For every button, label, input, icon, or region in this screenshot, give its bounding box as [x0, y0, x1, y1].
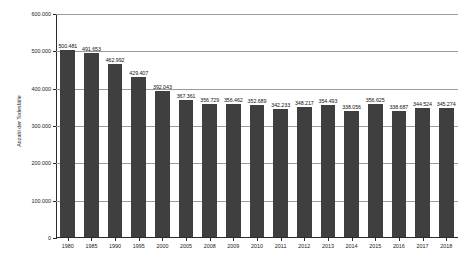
bar[interactable]: [155, 91, 170, 237]
x-tick-label: 2010: [245, 243, 269, 249]
x-tick-mark: [281, 238, 282, 241]
x-tick-mark: [233, 238, 234, 241]
bar[interactable]: [297, 107, 312, 237]
x-tick-label: 2005: [174, 243, 198, 249]
x-tick-label: 2008: [198, 243, 222, 249]
x-tick-mark: [328, 238, 329, 241]
bar[interactable]: [273, 109, 288, 237]
x-tick-mark: [115, 238, 116, 241]
bar-value-label: 338.056: [335, 104, 369, 110]
y-tick-label: 500.000: [32, 48, 52, 54]
y-tick-mark: [53, 126, 56, 127]
bar-value-label: 462.992: [98, 57, 132, 63]
bar-value-label: 491.653: [74, 46, 108, 52]
x-tick-label: 2000: [150, 243, 174, 249]
x-tick-mark: [91, 238, 92, 241]
y-tick-mark: [53, 89, 56, 90]
x-tick-label: 2018: [434, 243, 458, 249]
y-axis-title: Anzahl der Todesfälle: [16, 66, 22, 176]
x-tick-label: 2009: [221, 243, 245, 249]
x-tick-label: 2014: [340, 243, 364, 249]
x-tick-label: 2017: [411, 243, 435, 249]
y-tick-label: 100.000: [32, 198, 52, 204]
bar-value-label: 345.274: [429, 101, 463, 107]
y-tick-mark: [53, 201, 56, 202]
y-tick-mark: [53, 238, 56, 239]
x-tick-mark: [186, 238, 187, 241]
bar[interactable]: [392, 111, 407, 237]
bar[interactable]: [60, 50, 75, 237]
bar[interactable]: [84, 53, 99, 237]
bar[interactable]: [108, 64, 123, 237]
x-tick-label: 2011: [269, 243, 293, 249]
gridline: [56, 14, 458, 15]
bar[interactable]: [321, 105, 336, 237]
x-tick-mark: [446, 238, 447, 241]
bar-value-label: 392.043: [145, 84, 179, 90]
x-tick-label: 2012: [292, 243, 316, 249]
x-tick-label: 1980: [56, 243, 80, 249]
x-tick-mark: [423, 238, 424, 241]
x-tick-label: 2015: [363, 243, 387, 249]
bar[interactable]: [226, 104, 241, 237]
bar[interactable]: [179, 100, 194, 237]
x-tick-mark: [304, 238, 305, 241]
bar[interactable]: [439, 108, 454, 237]
bar[interactable]: [131, 77, 146, 237]
bar[interactable]: [202, 104, 217, 237]
plot-area: 0100.000200.000300.000400.000500.000600.…: [56, 14, 458, 238]
bar-value-label: 429.407: [122, 70, 156, 76]
bar[interactable]: [415, 108, 430, 237]
x-tick-mark: [210, 238, 211, 241]
x-tick-mark: [257, 238, 258, 241]
x-tick-label: 2013: [316, 243, 340, 249]
x-tick-mark: [68, 238, 69, 241]
x-tick-label: 1995: [127, 243, 151, 249]
y-tick-label: 400.000: [32, 86, 52, 92]
y-tick-mark: [53, 163, 56, 164]
y-tick-label: 200.000: [32, 160, 52, 166]
bar[interactable]: [250, 105, 265, 237]
x-tick-mark: [139, 238, 140, 241]
y-tick-mark: [53, 14, 56, 15]
bar-value-label: 356.625: [358, 97, 392, 103]
x-tick-label: 2016: [387, 243, 411, 249]
y-tick-label: 300.000: [32, 123, 52, 129]
bar-chart: Anzahl der Todesfälle 0100.000200.000300…: [0, 0, 464, 265]
x-tick-label: 1990: [103, 243, 127, 249]
x-tick-mark: [352, 238, 353, 241]
bar-value-label: 354.493: [311, 98, 345, 104]
bar[interactable]: [344, 111, 359, 237]
x-tick-mark: [162, 238, 163, 241]
gridline: [56, 51, 458, 52]
bar[interactable]: [368, 104, 383, 237]
x-tick-mark: [399, 238, 400, 241]
x-tick-mark: [375, 238, 376, 241]
y-tick-label: 0: [48, 235, 51, 241]
y-tick-label: 600.000: [32, 11, 52, 17]
y-tick-mark: [53, 51, 56, 52]
x-tick-label: 1985: [79, 243, 103, 249]
